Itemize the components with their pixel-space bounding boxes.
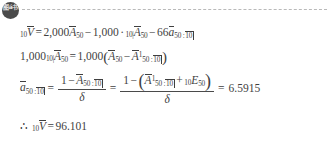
age-subscript: 50 : [83, 79, 93, 88]
coefficient-1000: 1,000 [20, 50, 46, 62]
age-subscript: 50 : [155, 79, 165, 88]
equals-sign: = [46, 120, 56, 132]
reserve-symbol: V [27, 26, 34, 39]
minus-sign: − [129, 74, 139, 86]
annuity-result-value: 6.5915 [227, 82, 263, 94]
fraction-numerator: 1−A50 :10 [58, 74, 106, 90]
term-angle-notation: 10 [153, 55, 162, 64]
numeral-one: 1 [61, 74, 67, 86]
prescript-duration: 10 [32, 124, 39, 133]
minus-sign: − [83, 26, 93, 38]
equation-line-1: 10V=2,000A50−1,000·10|A50−66a50 :10 [20, 26, 194, 40]
equation-line-2: 1,00010|A50=1,000(A50−A150 :10) [20, 50, 167, 65]
math-content: 10V=2,000A50−1,000·10|A50−66a50 :10 1,00… [0, 22, 329, 146]
close-paren: ) [162, 49, 167, 65]
age-subscript: 50 : [142, 55, 152, 64]
fraction-numerator: 1−(A150 :10+10E50) [120, 72, 214, 92]
equals-sign: = [216, 82, 227, 94]
age-subscript: 50 [61, 55, 68, 64]
term-angle-notation: 10 [165, 79, 174, 88]
equals-sign: = [108, 82, 119, 94]
age-subscript: 50 : [26, 87, 36, 96]
minus-sign: − [122, 50, 132, 62]
coefficient-1000: 1,000 [93, 26, 119, 38]
fraction-second: 1−(A150 :10+10E50)δ [120, 72, 214, 106]
therefore-symbol: ∴ [20, 120, 32, 132]
minus-sign: − [148, 26, 158, 38]
reserve-result-value: 96.101 [55, 120, 87, 132]
deferral-prescript: 10| [46, 54, 54, 63]
minus-sign: − [67, 74, 77, 86]
term-insurance-A-symbol: A [145, 74, 152, 87]
deferral-prescript: 10| [125, 30, 133, 39]
term-angle-notation: 10 [36, 87, 45, 96]
term-insurance-A-symbol: A [132, 50, 139, 63]
term-angle-notation: 10 [185, 31, 194, 40]
equation-line-3: a50 :10=1−A50 :10δ=1−(A150 :10+10E50)δ=6… [20, 72, 262, 106]
equals-sign: = [34, 26, 44, 38]
equals-sign: = [45, 82, 56, 94]
reserve-symbol: V [39, 120, 46, 133]
coefficient-1000: 1,000 [77, 50, 103, 62]
equation-line-4: ∴10V=96.101 [20, 120, 87, 133]
document-header: 图á书 [0, 0, 329, 22]
term-angle-notation: 10 [94, 79, 103, 88]
fraction-first: 1−A50 :10δ [58, 74, 106, 103]
coefficient-66: 66 [157, 26, 169, 38]
fraction-denominator-delta: δ [58, 90, 106, 104]
plus-sign: + [175, 74, 185, 86]
age-subscript: 50 [141, 31, 148, 40]
deferred-insurance-A-symbol: A [134, 26, 141, 39]
close-paren: ) [205, 71, 211, 91]
age-subscript: 50 : [174, 31, 184, 40]
fraction-denominator-delta: δ [120, 92, 214, 106]
header-divider [22, 9, 327, 10]
prescript-duration: 10 [20, 30, 27, 39]
document-logo-badge: 图á书 [2, 2, 19, 19]
coefficient-2000: 2,000 [43, 26, 69, 38]
